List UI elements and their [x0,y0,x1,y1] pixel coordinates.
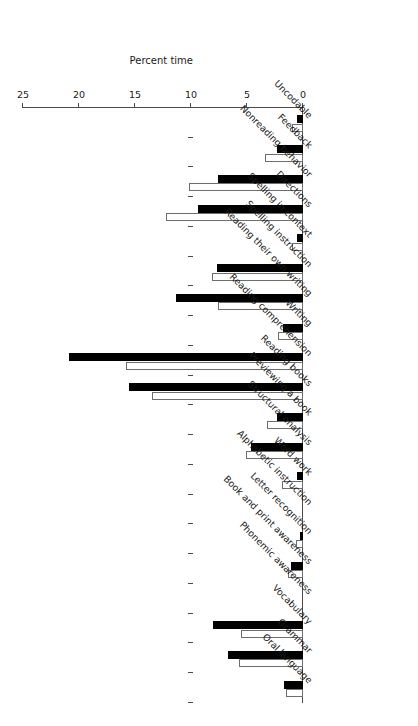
category-axis-tick [188,375,193,376]
bar-black [300,532,303,540]
bar-white [126,362,303,370]
bar-black [176,294,303,302]
category-axis-tick [188,226,193,227]
bar-black [297,115,303,123]
value-axis-tick-label: 25 [8,89,38,100]
rotated-chart-canvas: 0510152025 Oral languageGrammarVocabular… [0,0,418,726]
category-axis-tick [188,613,193,614]
value-axis-tick [78,103,79,108]
value-axis-tick-label: 20 [64,89,94,100]
category-axis-tick [188,434,193,435]
category-axis-tick [188,166,193,167]
category-axis-tick [188,672,193,673]
value-axis-tick-label: 5 [232,89,262,100]
bar-black [297,472,303,480]
chart-figure: 0510152025 Oral languageGrammarVocabular… [0,0,418,726]
bar-white [286,689,303,697]
category-axis-tick [188,642,193,643]
value-axis-tick-label: 10 [176,89,206,100]
value-axis-tick [22,103,23,108]
value-axis-tick [190,103,191,108]
category-axis-tick [188,256,193,257]
category-axis-tick [188,464,193,465]
category-axis-tick [188,196,193,197]
category-axis-tick [188,315,193,316]
category-axis-tick [188,345,193,346]
category-axis-tick [188,404,193,405]
bar-black [297,234,303,242]
value-axis-tick [134,103,135,108]
category-axis-tick [188,137,193,138]
bar-black [69,353,303,361]
value-axis-tick-label: 15 [120,89,150,100]
category-axis-tick [188,583,193,584]
plot-area [23,108,303,703]
category-axis-tick [188,553,193,554]
category-axis-tick [188,523,193,524]
category-axis-tick [188,494,193,495]
category-axis-tick [188,702,193,703]
value-axis-title: Percent time [130,55,193,66]
bar-white [152,392,303,400]
category-axis-tick [188,285,193,286]
bar-black [284,681,303,689]
